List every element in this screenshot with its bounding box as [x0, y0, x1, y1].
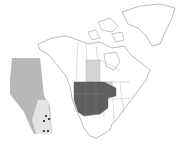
- arctic-islands: [88, 18, 124, 42]
- alberta-inset: [10, 58, 52, 134]
- north-america-map: [0, 0, 183, 147]
- greenland: [122, 4, 175, 46]
- map-figure: [0, 0, 183, 147]
